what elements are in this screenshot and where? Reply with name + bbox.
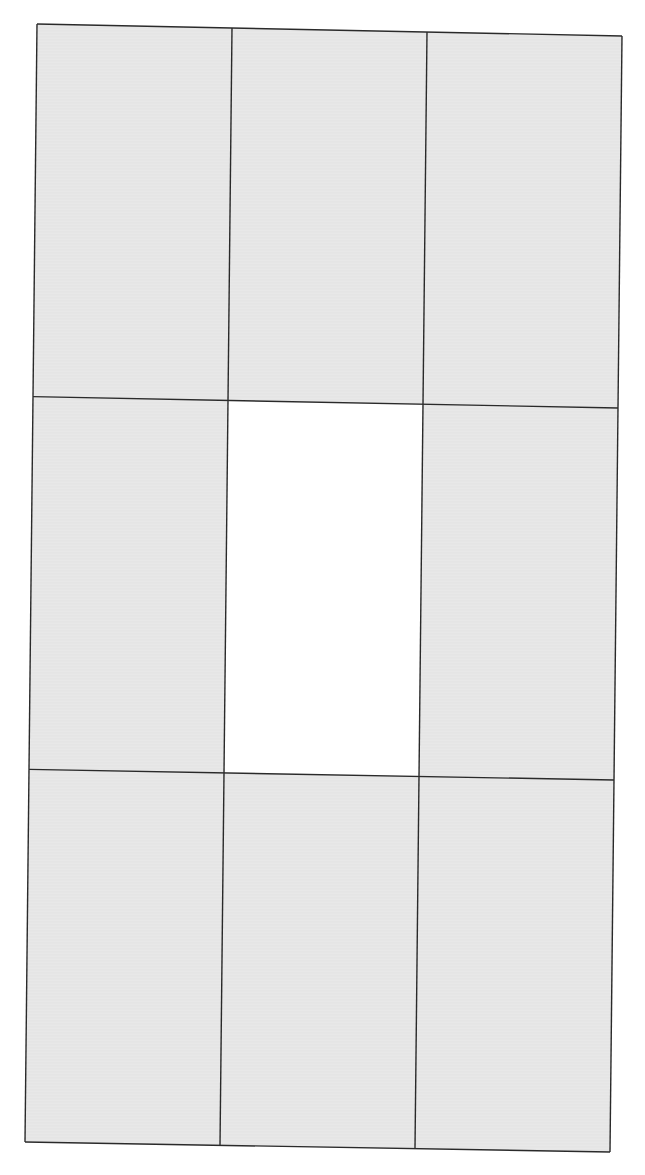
cell-texture <box>220 773 419 1149</box>
grid-cell-r1-c1-empty <box>224 400 423 776</box>
cell-texture <box>423 32 622 408</box>
grid-canvas <box>0 0 645 1175</box>
grid-cells <box>25 24 622 1152</box>
cell-texture <box>228 28 427 404</box>
cell-texture <box>419 404 618 780</box>
cell-texture <box>415 776 614 1152</box>
cell-texture <box>25 769 224 1145</box>
cell-texture <box>29 397 228 773</box>
cell-texture <box>33 24 232 400</box>
